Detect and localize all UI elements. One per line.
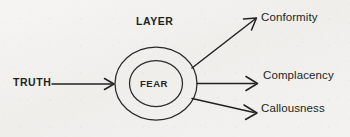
conformity-arrow-shaft [192, 20, 255, 69]
truth-input-label: TRUTH [13, 77, 51, 88]
diagram-canvas: LAYER TRUTH FEAR Conformity Complacency … [0, 0, 350, 137]
layer-title-label: LAYER [136, 16, 173, 27]
output-label-callousness: Callousness [261, 103, 325, 115]
output-label-conformity: Conformity [261, 12, 318, 24]
fear-center-label: FEAR [140, 79, 168, 89]
output-label-complacency: Complacency [263, 70, 334, 82]
